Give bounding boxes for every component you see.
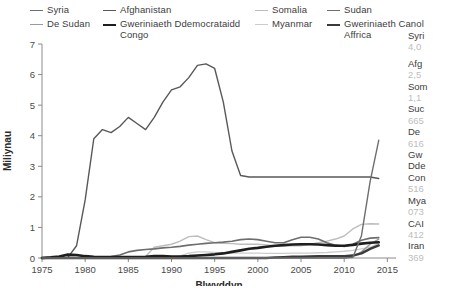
x-tick-label: 2015 (377, 264, 398, 275)
chart-legend: SyriaDe SudanAfghanistanGweriniaeth Ddem… (0, 0, 474, 40)
x-tick-label: 1985 (118, 264, 139, 275)
x-tick-label: 2010 (334, 264, 355, 275)
country-name: Som (408, 81, 474, 92)
chart-page: SyriaDe SudanAfghanistanGweriniaeth Ddem… (0, 0, 474, 307)
x-tick-label: 1980 (75, 264, 96, 275)
legend-label: Myanmar (272, 18, 312, 29)
legend-label: Afghanistan (120, 4, 171, 15)
legend-swatch-line-icon (327, 24, 340, 26)
country-value: 4,0 (408, 41, 474, 52)
country-name: De (408, 126, 474, 137)
x-tick-label: 1990 (161, 264, 182, 275)
country-value: 665 (408, 115, 474, 126)
country-name: Syri (408, 30, 474, 41)
legend-swatch-line-icon (255, 10, 268, 11)
legend-item-somalia[interactable]: Somalia (255, 4, 312, 17)
legend-swatch-line-icon (327, 10, 340, 11)
country-value: 516 (408, 183, 474, 194)
country-value: 2,5 (408, 69, 474, 80)
legend-item-afghanistan[interactable]: Afghanistan (103, 4, 240, 17)
y-tick-label: 7 (30, 39, 35, 50)
legend-label: Somalia (272, 4, 307, 15)
y-tick-label: 5 (30, 100, 35, 111)
line-chart: 0123456719751980198519901995200020052010… (0, 36, 400, 286)
country-value-list: Syri4,0Afg2,5Som1,1Suc665De 616Gw Dde Co… (408, 30, 474, 263)
country-value: 073 (408, 206, 474, 217)
y-tick-label: 0 (30, 253, 35, 264)
x-tick-label: 2000 (247, 264, 268, 275)
x-tick-label: 2005 (290, 264, 311, 275)
legend-item-syria[interactable]: Syria (30, 4, 90, 17)
legend-column-2: SomaliaMyanmar (255, 4, 312, 32)
legend-swatch-line-icon (255, 24, 268, 25)
legend-label: De Sudan (47, 18, 90, 29)
plot-area: 0123456719751980198519901995200020052010… (0, 36, 400, 286)
country-name: Gw Dde Con (408, 149, 474, 183)
y-tick-label: 3 (30, 161, 35, 172)
legend-column-0: SyriaDe Sudan (30, 4, 90, 32)
legend-swatch-line-icon (30, 24, 43, 25)
legend-item-sudan[interactable]: Sudan (327, 4, 424, 17)
x-tick-label: 1995 (204, 264, 225, 275)
country-name: Iran (408, 240, 474, 251)
y-axis-title: Miliynau (2, 131, 13, 171)
series-line-afghanistan (42, 64, 379, 258)
y-tick-label: 6 (30, 69, 35, 80)
country-name: Mya (408, 195, 474, 206)
country-value: 369 (408, 252, 474, 263)
country-name: CAI (408, 218, 474, 229)
legend-label: Sudan (344, 4, 372, 15)
country-name: Suc (408, 103, 474, 114)
country-value: 1,1 (408, 92, 474, 103)
y-tick-label: 2 (30, 191, 35, 202)
legend-item-myanmar[interactable]: Myanmar (255, 18, 312, 31)
legend-swatch-line-icon (103, 24, 116, 26)
country-value: 412 (408, 229, 474, 240)
legend-item-de-sudan[interactable]: De Sudan (30, 18, 90, 31)
x-axis-title: Blwyddyn (195, 280, 242, 286)
x-tick-label: 1975 (31, 264, 52, 275)
y-tick-label: 4 (30, 130, 35, 141)
legend-label: Syria (47, 4, 69, 15)
country-name: Afg (408, 58, 474, 69)
y-tick-label: 1 (30, 222, 35, 233)
legend-swatch-line-icon (30, 10, 43, 11)
legend-swatch-line-icon (103, 10, 116, 11)
country-value: 616 (408, 138, 474, 149)
